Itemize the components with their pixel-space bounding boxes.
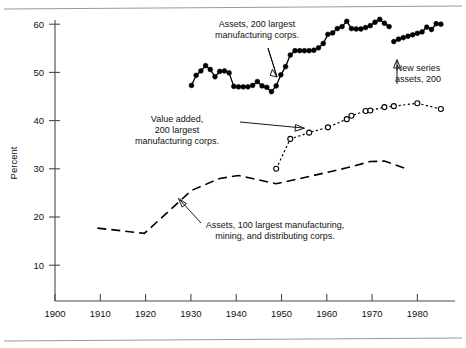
data-point [297, 48, 302, 53]
data-point [213, 74, 218, 79]
data-point [391, 39, 396, 44]
data-point [382, 21, 387, 26]
data-point [406, 34, 411, 39]
annotation-assets-100: Assets, 100 largest manufacturing, minin… [206, 220, 345, 241]
series-line-2 [276, 103, 441, 169]
x-tick-label-1970: 1970 [362, 308, 383, 319]
anno-new-series-line-1: New series [396, 63, 441, 73]
annotation-value-added: Value added, 200 largest manufacturing c… [135, 114, 219, 146]
x-tick-label-1900: 1900 [44, 308, 65, 319]
y-tick-label-10: 10 [33, 260, 44, 271]
series-2 [274, 101, 444, 172]
data-point [429, 27, 434, 32]
leader-value-added [240, 122, 303, 128]
data-point [438, 22, 443, 27]
series-1 [391, 21, 443, 44]
leader-assets-100 [180, 200, 201, 223]
data-point [194, 73, 199, 78]
page-rule-bottom [4, 338, 462, 341]
data-point [349, 26, 354, 31]
data-point [227, 70, 232, 75]
page-rule-top [4, 6, 462, 9]
anno-value-added-line-3: manufacturing corps. [135, 136, 219, 146]
data-point [260, 84, 265, 89]
chart-canvas: 60 50 40 30 20 10 Percent 1900 1910 1920… [0, 0, 466, 348]
x-tick-label-1920: 1920 [135, 308, 156, 319]
anno-value-added-line-1: Value added, [151, 114, 203, 124]
y-tick-label-40: 40 [33, 115, 44, 126]
x-tick-label-1950: 1950 [271, 308, 292, 319]
x-tick-label-1910: 1910 [90, 308, 111, 319]
data-point [358, 27, 363, 32]
data-point [302, 48, 307, 53]
x-tick-label-1980: 1980 [407, 308, 428, 319]
annotation-assets-200: Assets, 200 largest manufacturing corps. [215, 19, 299, 40]
data-point [340, 24, 345, 29]
data-point [293, 48, 298, 53]
data-point [264, 85, 269, 90]
anno-new-series-line-2: assets, 200 [395, 74, 441, 84]
data-point [307, 48, 312, 53]
data-point [255, 79, 260, 84]
data-point [382, 105, 387, 110]
data-point [415, 31, 420, 36]
data-point [288, 136, 293, 141]
data-point [288, 53, 293, 58]
leader-assets-200-head [268, 48, 277, 77]
y-axis-tick-labels: 60 50 40 30 20 10 [33, 19, 44, 271]
data-point [349, 113, 354, 118]
data-point [278, 72, 283, 77]
data-point [438, 107, 443, 112]
anno-assets-100-line-1: Assets, 100 largest manufacturing, [206, 220, 345, 230]
data-point [307, 130, 312, 135]
data-point [250, 83, 255, 88]
data-point [236, 84, 241, 89]
data-point [344, 117, 349, 122]
x-axis-tick-labels: 1900 1910 1920 1930 1940 1950 1960 1970 … [44, 308, 428, 319]
data-point [246, 84, 251, 89]
data-point [377, 17, 382, 22]
y-tick-label-60: 60 [33, 19, 44, 30]
data-point [368, 108, 373, 113]
data-point [434, 21, 439, 26]
data-point [283, 64, 288, 69]
data-point [325, 125, 330, 130]
data-point [198, 69, 203, 74]
data-point [321, 41, 326, 46]
x-tick-label-1960: 1960 [316, 308, 337, 319]
data-point [222, 69, 227, 74]
annotation-new-series: New series assets, 200 [395, 63, 441, 84]
data-point [316, 45, 321, 50]
anno-assets-200-line-2: manufacturing corps. [215, 30, 299, 40]
data-point [420, 30, 425, 35]
y-tick-label-20: 20 [33, 211, 44, 222]
data-point [344, 19, 349, 24]
data-point [208, 67, 213, 72]
data-point [424, 25, 429, 30]
x-axis-ticks [55, 294, 417, 301]
y-tick-label-50: 50 [33, 67, 44, 78]
data-point [217, 69, 222, 74]
data-point [391, 104, 396, 109]
y-tick-label-30: 30 [33, 163, 44, 174]
data-point [401, 35, 406, 40]
anno-value-added-line-2: 200 largest [155, 125, 200, 135]
data-point [241, 84, 246, 89]
data-point [373, 20, 378, 25]
data-point [274, 166, 279, 171]
y-axis-title: Percent [8, 146, 19, 179]
data-point [387, 24, 392, 29]
data-point [326, 32, 331, 37]
data-point [274, 84, 279, 89]
x-tick-label-1930: 1930 [180, 308, 201, 319]
anno-assets-200-line-1: Assets, 200 largest [219, 19, 296, 29]
data-point [203, 63, 208, 68]
data-point [330, 30, 335, 35]
data-point [311, 48, 316, 53]
data-point [269, 89, 274, 94]
data-point [368, 23, 373, 28]
data-point [231, 84, 236, 89]
data-point [363, 25, 368, 30]
x-tick-label-1940: 1940 [226, 308, 247, 319]
anno-assets-100-line-2: mining, and distributing corps. [215, 231, 335, 241]
